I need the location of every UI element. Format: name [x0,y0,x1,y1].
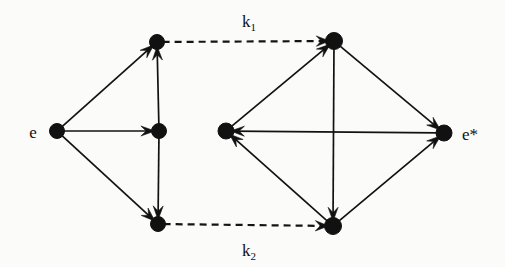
edge-L3-to-R3 [164,224,327,226]
node-r3 [325,218,342,235]
diagram-canvas: e e* k1 k2 [0,0,505,267]
edge-R3-to-e* [338,137,440,222]
edge-R3-to-R2 [230,135,328,222]
node-r2 [218,123,234,139]
edge-label-k1-subscript: 1 [251,21,257,33]
edge-e-to-L1 [61,45,153,127]
edge-L1-to-R1 [163,41,328,42]
arrowheads-layer [140,36,440,231]
edge-R1-to-e* [339,45,440,129]
edge-L2-to-L3 [158,137,159,219]
node-l1 [150,35,165,50]
edge-label-k2: k2 [242,241,256,262]
node-label-e-star: e* [462,125,478,144]
node-e-star [436,125,452,141]
edge-R2-to-R1 [231,45,330,127]
nodes-layer [50,33,453,235]
edge-e-to-L3 [61,135,154,221]
edge-e*-to-R2 [232,131,438,133]
edge-label-k2-subscript: 2 [251,250,257,262]
edge-label-k1: k1 [242,12,256,33]
node-l3 [151,217,166,232]
node-label-e: e [29,123,37,142]
node-e [50,124,65,139]
edge-R1-to-R3 [333,47,334,220]
edges-layer [61,41,440,226]
node-l2 [152,124,167,139]
node-r1 [326,33,343,50]
reaction-network-diagram: e e* k1 k2 [0,0,505,267]
edge-L2-to-L1 [157,47,159,125]
